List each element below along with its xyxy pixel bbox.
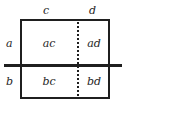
row-header-b: b [6,76,13,87]
horizontal-solid-divider [4,64,122,67]
cell-ac: ac [28,38,70,49]
diagram-canvas: c d a b ac ad bc bd [0,0,179,116]
vertical-dotted-divider [77,19,79,99]
cell-bc: bc [28,76,70,87]
cell-ad: ad [80,38,108,49]
row-header-a: a [6,38,13,49]
column-header-d: d [89,5,96,16]
column-header-c: c [43,5,49,16]
cell-bd: bd [80,76,108,87]
